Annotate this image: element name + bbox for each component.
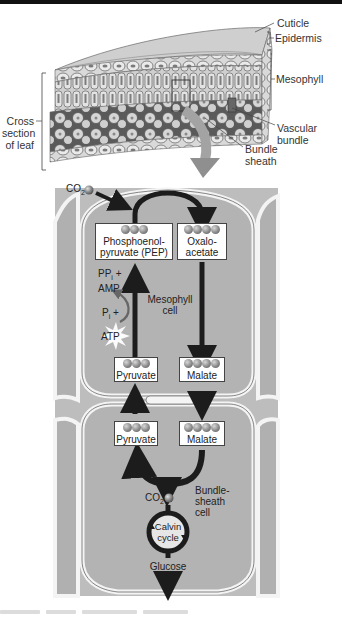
pep-line1: Phosphoenol- xyxy=(96,236,172,247)
label-bundle-sheath-line2: sheath xyxy=(245,155,278,167)
label-cross-line2: section xyxy=(2,127,34,139)
oxaloacetate-line1: Oxalo- xyxy=(178,236,226,247)
mesophyll-cell-line1: Mesophyll xyxy=(144,294,196,305)
carbon-balls-3 xyxy=(115,423,157,433)
carbon-balls-4 xyxy=(180,423,224,433)
pyruvate-bundle-label: Pyruvate xyxy=(115,434,157,445)
calvin-line1: Calvin xyxy=(148,521,188,532)
pep-box: Phosphoenol- pyruvate (PEP) xyxy=(95,223,173,260)
ppi-text: PP xyxy=(98,268,111,279)
malate-bundle-box: Malate xyxy=(179,421,225,446)
bundle-sheath-cell-line2: sheath xyxy=(195,496,229,507)
pi-plus: + xyxy=(110,307,119,318)
pyruvate-bundle-box: Pyruvate xyxy=(114,421,158,446)
label-vascular-line1: Vascular xyxy=(277,122,317,134)
carbon-balls-4 xyxy=(178,225,226,235)
oxaloacetate-line2: acetate xyxy=(178,247,226,258)
calvin-cycle-label: Calvin cycle xyxy=(148,521,188,543)
co2-subscript: 2 xyxy=(160,498,164,505)
pyruvate-mesophyll-label: Pyruvate xyxy=(115,370,157,381)
label-epidermis: Epidermis xyxy=(275,32,322,44)
label-vascular-line2: bundle xyxy=(277,134,317,146)
oxaloacetate-box: Oxalo- acetate xyxy=(177,223,227,260)
carbon-balls-4 xyxy=(180,359,224,369)
malate-mesophyll-label: Malate xyxy=(180,370,224,381)
co2-text: CO xyxy=(66,183,81,194)
label-vascular-bundle: Vascular bundle xyxy=(277,122,317,146)
label-mesophyll: Mesophyll xyxy=(276,73,323,85)
mesophyll-cell-line2: cell xyxy=(144,305,196,316)
co2-label-top: CO2 xyxy=(66,183,85,198)
ppi-amp-label: PPi + AMP xyxy=(98,268,122,294)
amp-text: AMP xyxy=(98,283,122,294)
mesophyll-cell-label: Mesophyll cell xyxy=(144,294,196,316)
atp-label: ATP xyxy=(101,331,120,342)
pi-label: Pi + xyxy=(102,307,119,322)
label-bundle-sheath-line1: Bundle xyxy=(245,143,278,155)
co2-text: CO xyxy=(145,492,160,503)
calvin-line2: cycle xyxy=(148,532,188,543)
pi-text: P xyxy=(102,307,109,318)
carbon-balls-3 xyxy=(96,225,172,235)
label-bundle-sheath: Bundle sheath xyxy=(245,143,278,167)
malate-bundle-label: Malate xyxy=(180,434,224,445)
carbon-balls-3 xyxy=(115,359,157,369)
glucose-label: Glucose xyxy=(138,561,198,572)
label-cuticle: Cuticle xyxy=(277,17,309,29)
bundle-sheath-cell-line3: cell xyxy=(195,507,229,518)
co2-label-bundle: CO2 xyxy=(145,492,164,507)
bundle-sheath-cell-label: Bundle- sheath cell xyxy=(195,485,229,518)
label-cross-section-of-leaf: Cross section of leaf xyxy=(2,115,34,151)
malate-mesophyll-box: Malate xyxy=(179,357,225,382)
pyruvate-mesophyll-box: Pyruvate xyxy=(114,357,158,382)
pep-line2: pyruvate (PEP) xyxy=(96,247,172,258)
label-cross-line1: Cross xyxy=(2,115,34,127)
bundle-sheath-cell-line1: Bundle- xyxy=(195,485,229,496)
ppi-plus: + xyxy=(113,268,122,279)
figure-caption-blurred xyxy=(0,610,188,616)
co2-subscript: 2 xyxy=(81,189,85,196)
label-cross-line3: of leaf xyxy=(2,139,34,151)
